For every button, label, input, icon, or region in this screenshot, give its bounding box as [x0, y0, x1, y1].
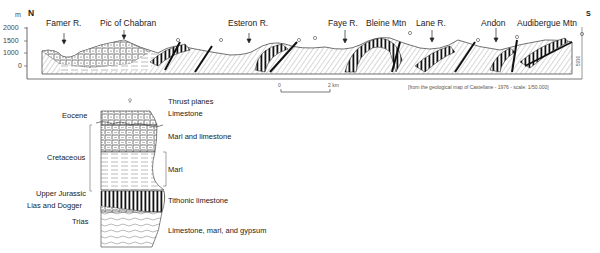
source-citation: [from the geological map of Castellane -… [408, 84, 549, 90]
legend-limestone-marl-gypsum: Limestone, marl, and gypsum [168, 226, 266, 235]
location-audibergue-mtn: Audibergue Mtn [517, 18, 577, 28]
location-esteron: Esteron R. [228, 18, 268, 28]
location-famer: Famer R. [46, 18, 81, 28]
cross-section-drawing [0, 0, 600, 253]
legend-marl: Marl [168, 165, 183, 174]
location-pic-of-chabran: Pic of Chabran [100, 18, 156, 28]
location-faye: Faye R. [328, 18, 358, 28]
legend-tithonic-limestone: Tithonic limestone [168, 196, 228, 205]
scale-bar-start: 0 [278, 82, 281, 88]
location-bleine-mtn: Bleine Mtn [366, 18, 406, 28]
scale-bar-end: 2 km [328, 82, 339, 88]
location-lane: Lane R. [416, 18, 446, 28]
legend-limestone: Limestone [168, 109, 203, 118]
legend-thrust-planes: Thrust planes [168, 97, 213, 106]
age-upper-jurassic: Upper Jurassic [36, 189, 86, 198]
location-andon: Andon [481, 18, 506, 28]
age-lias-and-dogger: Lias and Dogger [27, 201, 82, 210]
age-cretaceous: Cretaceous [47, 153, 85, 162]
unit-label: m [15, 11, 21, 18]
legend-marl-and-limestone: Marl and limestone [168, 132, 231, 141]
y-tick-2000: 2000 [3, 24, 19, 31]
figure-code: 5936 [576, 56, 581, 66]
south-label: S [586, 10, 591, 17]
north-label: N [28, 8, 34, 18]
age-trias: Trias [72, 217, 88, 226]
y-tick-0: 0 [18, 62, 22, 69]
age-eocene: Eocene [62, 111, 87, 120]
y-tick-1000: 1000 [3, 49, 19, 56]
y-tick-1500: 1500 [3, 37, 19, 44]
